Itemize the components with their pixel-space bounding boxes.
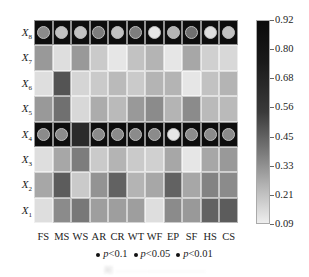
heatmap-cell: [127, 20, 146, 45]
heatmap-cell: [71, 147, 90, 172]
heatmap-cell: [127, 96, 146, 121]
heatmap-cell: [71, 45, 90, 70]
heatmap-cell: [182, 96, 201, 121]
heatmap-cell: [182, 172, 201, 197]
significance-marker: [55, 26, 68, 39]
colorbar-tick-label: 0.09: [275, 218, 293, 230]
significance-marker: [204, 128, 217, 141]
colorbar-tick: [270, 137, 274, 138]
heatmap-cell: [108, 198, 127, 223]
significance-marker: [129, 128, 142, 141]
significance-marker: [148, 26, 161, 39]
colorbar-tick-label: 0.21: [275, 189, 293, 201]
heatmap-cell: [182, 147, 201, 172]
heatmap-cell: [108, 122, 127, 147]
legend-item: p<0.05: [134, 248, 171, 259]
heatmap-cell: [71, 20, 90, 45]
heatmap-cell: [164, 96, 183, 121]
heatmap-cell: [108, 71, 127, 96]
bullet-icon: [176, 253, 180, 257]
heatmap-cell: [53, 122, 72, 147]
heatmap-cell: [219, 45, 238, 70]
significance-marker: [204, 26, 217, 39]
y-tick-label: X6: [10, 71, 32, 96]
significance-marker: [222, 26, 235, 39]
heatmap-cell: [201, 96, 220, 121]
heatmap-cell: [127, 147, 146, 172]
significance-marker: [222, 128, 235, 141]
heatmap-cell: [145, 20, 164, 45]
heatmap-cell: [219, 71, 238, 96]
heatmap-cell: [127, 71, 146, 96]
y-tick-label: X4: [10, 122, 32, 147]
heatmap-cell: [201, 71, 220, 96]
heatmap-cell: [219, 198, 238, 223]
colorbar-tick: [270, 49, 274, 50]
heatmap-cell: [127, 45, 146, 70]
heatmap-cell: [127, 198, 146, 223]
heatmap-cell: [53, 20, 72, 45]
significance-marker: [129, 26, 142, 39]
heatmap-cell: [108, 96, 127, 121]
heatmap-cell: [90, 198, 109, 223]
significance-marker: [92, 128, 105, 141]
heatmap-cell: [108, 20, 127, 45]
heatmap-cell: [219, 172, 238, 197]
heatmap-cell: [34, 122, 53, 147]
y-tick-label: X7: [10, 45, 32, 70]
heatmap-cell: [34, 45, 53, 70]
colorbar-tick-label: 0.68: [275, 72, 293, 84]
heatmap-cell: [219, 20, 238, 45]
heatmap-cell: [182, 20, 201, 45]
heatmap-cell: [90, 20, 109, 45]
heatmap-cell: [127, 172, 146, 197]
heatmap-cell: [71, 172, 90, 197]
significance-marker: [167, 26, 180, 39]
heatmap-cell: [53, 96, 72, 121]
heatmap-cell: [145, 172, 164, 197]
heatmap-cell: [145, 122, 164, 147]
significance-marker: [74, 26, 87, 39]
colorbar-tick-label: 0.92: [275, 14, 293, 26]
colorbar-tick-label: 0.33: [275, 160, 293, 172]
heatmap-cell: [145, 198, 164, 223]
heatmap-cell: [34, 20, 53, 45]
heatmap-cell: [34, 96, 53, 121]
colorbar-tick: [270, 107, 274, 108]
heatmap-cell: [164, 172, 183, 197]
heatmap-cell: [201, 122, 220, 147]
colorbar-tick-label: 0.56: [275, 101, 293, 113]
colorbar-tick: [270, 166, 274, 167]
colorbar: [256, 20, 270, 224]
heatmap-cell: [90, 45, 109, 70]
heatmap-cell: [108, 172, 127, 197]
heatmap-cell: [182, 122, 201, 147]
heatmap-cell: [164, 198, 183, 223]
heatmap-cell: [219, 147, 238, 172]
colorbar-tick: [270, 78, 274, 79]
heatmap-cell: [219, 96, 238, 121]
bullet-icon: [134, 253, 138, 257]
significance-marker: [37, 26, 50, 39]
heatmap-cell: [201, 172, 220, 197]
heatmap-cell: [53, 45, 72, 70]
heatmap-cell: [219, 122, 238, 147]
heatmap-cell: [145, 71, 164, 96]
colorbar-tick: [270, 195, 274, 196]
y-tick-label: X1: [10, 198, 32, 223]
significance-marker: [111, 128, 124, 141]
heatmap-cell: [71, 122, 90, 147]
heatmap-cell: [145, 147, 164, 172]
heatmap-cell: [201, 20, 220, 45]
legend-item: p<0.1: [96, 248, 127, 259]
significance-marker: [92, 26, 105, 39]
heatmap-cell: [182, 198, 201, 223]
heatmap-cell: [145, 45, 164, 70]
heatmap-cell: [71, 198, 90, 223]
heatmap-cell: [90, 147, 109, 172]
heatmap-cell: [34, 198, 53, 223]
colorbar-tick: [270, 20, 274, 21]
colorbar-tick: [270, 224, 274, 225]
significance-marker: [37, 128, 50, 141]
heatmap-cell: [108, 45, 127, 70]
